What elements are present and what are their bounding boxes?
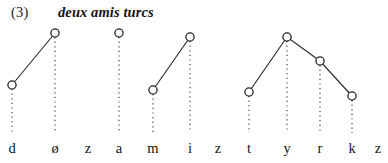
segment-label-1: ø (44, 139, 66, 157)
segment-label-10: k (341, 139, 363, 157)
contour-line-group (12, 33, 352, 96)
segment-label-7: t (238, 139, 260, 157)
tone-node-t (245, 88, 253, 96)
segment-label-2: z (77, 139, 99, 157)
tone-node-r (316, 57, 324, 65)
segment-label-5: i (179, 139, 201, 157)
tone-node-group (8, 29, 356, 100)
tone-node-d (8, 81, 16, 89)
tone-node-m (149, 86, 157, 94)
segment-label-8: y (276, 139, 298, 157)
segment-label-4: m (142, 139, 164, 157)
figure-root: (3) deux amis turcs døzamiztyrkz (0, 0, 388, 163)
segment-label-3: a (108, 139, 130, 157)
contour-contour-2 (153, 37, 190, 90)
tone-node-k (348, 92, 356, 100)
tone-node-a (115, 29, 123, 37)
segment-label-11: z (367, 139, 388, 157)
association-line-group (12, 37, 352, 133)
tone-node-y (283, 33, 291, 41)
contour-contour-3 (249, 37, 352, 96)
segment-label-0: d (1, 139, 23, 157)
segment-label-9: r (309, 139, 331, 157)
tone-node-i (186, 33, 194, 41)
contour-contour-1 (12, 33, 55, 85)
tone-node-ø (51, 29, 59, 37)
segment-label-6: z (207, 139, 229, 157)
